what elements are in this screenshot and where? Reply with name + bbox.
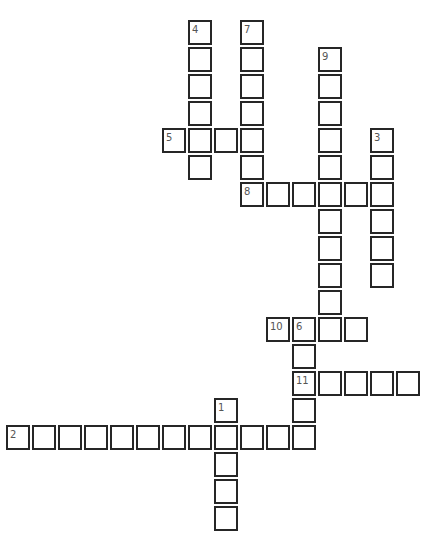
crossword-cell[interactable] — [292, 344, 316, 369]
crossword-cell[interactable] — [370, 263, 394, 288]
crossword-cell[interactable] — [370, 155, 394, 180]
crossword-grid: 1234561178910 — [0, 0, 448, 539]
crossword-cell[interactable] — [214, 506, 238, 531]
crossword-cell[interactable] — [370, 182, 394, 207]
crossword-cell[interactable] — [136, 425, 160, 450]
crossword-cell[interactable]: 3 — [370, 128, 394, 153]
crossword-cell[interactable] — [318, 155, 342, 180]
crossword-cell[interactable] — [188, 128, 212, 153]
crossword-cell[interactable] — [266, 182, 290, 207]
crossword-cell[interactable] — [240, 101, 264, 126]
crossword-cell[interactable] — [292, 182, 316, 207]
crossword-cell[interactable] — [344, 317, 368, 342]
crossword-cell[interactable] — [292, 425, 316, 450]
clue-number: 6 — [296, 321, 302, 332]
crossword-cell[interactable] — [214, 452, 238, 477]
crossword-cell[interactable] — [58, 425, 82, 450]
crossword-cell[interactable] — [240, 155, 264, 180]
clue-number: 1 — [218, 402, 224, 413]
clue-number: 4 — [192, 24, 198, 35]
clue-number: 2 — [10, 429, 16, 440]
crossword-cell[interactable] — [318, 263, 342, 288]
crossword-cell[interactable] — [370, 371, 394, 396]
clue-number: 8 — [244, 186, 250, 197]
crossword-cell[interactable]: 10 — [266, 317, 290, 342]
crossword-cell[interactable] — [214, 425, 238, 450]
crossword-cell[interactable] — [214, 479, 238, 504]
crossword-cell[interactable]: 1 — [214, 398, 238, 423]
crossword-cell[interactable] — [266, 425, 290, 450]
crossword-cell[interactable] — [318, 290, 342, 315]
crossword-cell[interactable] — [344, 371, 368, 396]
clue-number: 7 — [244, 24, 250, 35]
crossword-cell[interactable]: 4 — [188, 20, 212, 45]
crossword-cell[interactable] — [318, 101, 342, 126]
clue-number: 9 — [322, 51, 328, 62]
crossword-cell[interactable]: 11 — [292, 371, 316, 396]
crossword-cell[interactable] — [318, 209, 342, 234]
crossword-cell[interactable] — [188, 74, 212, 99]
crossword-cell[interactable] — [318, 182, 342, 207]
crossword-cell[interactable] — [344, 182, 368, 207]
crossword-cell[interactable] — [188, 425, 212, 450]
crossword-cell[interactable] — [188, 155, 212, 180]
crossword-cell[interactable] — [318, 371, 342, 396]
crossword-cell[interactable] — [240, 47, 264, 72]
crossword-cell[interactable] — [110, 425, 134, 450]
clue-number: 5 — [166, 132, 172, 143]
crossword-cell[interactable]: 6 — [292, 317, 316, 342]
crossword-cell[interactable] — [240, 128, 264, 153]
crossword-cell[interactable] — [370, 236, 394, 261]
crossword-cell[interactable]: 9 — [318, 47, 342, 72]
crossword-cell[interactable]: 8 — [240, 182, 264, 207]
crossword-cell[interactable] — [240, 74, 264, 99]
crossword-cell[interactable]: 7 — [240, 20, 264, 45]
crossword-cell[interactable] — [214, 128, 238, 153]
clue-number: 10 — [270, 321, 283, 332]
clue-number: 11 — [296, 375, 309, 386]
crossword-cell[interactable] — [318, 74, 342, 99]
crossword-cell[interactable] — [188, 101, 212, 126]
crossword-cell[interactable] — [396, 371, 420, 396]
crossword-cell[interactable] — [32, 425, 56, 450]
crossword-cell[interactable] — [84, 425, 108, 450]
crossword-cell[interactable] — [318, 236, 342, 261]
crossword-cell[interactable] — [188, 47, 212, 72]
crossword-cell[interactable] — [318, 128, 342, 153]
crossword-cell[interactable] — [318, 317, 342, 342]
crossword-cell[interactable] — [162, 425, 186, 450]
crossword-cell[interactable] — [240, 425, 264, 450]
clue-number: 3 — [374, 132, 380, 143]
crossword-cell[interactable]: 5 — [162, 128, 186, 153]
crossword-cell[interactable] — [370, 209, 394, 234]
crossword-cell[interactable] — [292, 398, 316, 423]
crossword-cell[interactable]: 2 — [6, 425, 30, 450]
